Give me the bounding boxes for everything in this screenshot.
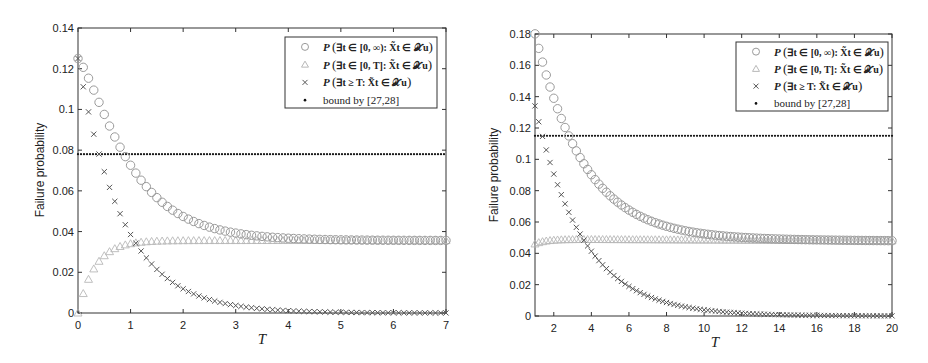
x-marker — [312, 309, 317, 314]
bound-dot — [170, 153, 172, 155]
bound-dot — [708, 135, 710, 137]
x-tick-label: 1 — [128, 319, 134, 331]
x-marker — [117, 211, 122, 216]
bound-dot — [218, 153, 220, 155]
bound-dot — [702, 135, 704, 137]
circle-marker — [184, 215, 192, 223]
x-marker — [344, 310, 349, 315]
circle-marker — [142, 182, 150, 190]
x-marker — [138, 248, 143, 253]
legend-entry: P (∃t ≥ T: X̃t ∈ 𝒳u) — [323, 74, 411, 89]
bound-dot — [849, 135, 851, 137]
bound-dot — [77, 153, 79, 155]
bound-dot — [783, 135, 785, 137]
legend-entry: P (∃t ∈ [0, T]: X̃t ∈ 𝒳u) — [323, 57, 432, 72]
bound-dot — [323, 153, 325, 155]
bound-dot — [131, 153, 133, 155]
bound-dot — [606, 135, 608, 137]
bound-dot — [206, 153, 208, 155]
x-marker — [175, 283, 180, 288]
bound-dot — [290, 153, 292, 155]
bound-dot — [555, 135, 557, 137]
bound-dot — [882, 135, 884, 137]
bound-dot — [669, 135, 671, 137]
bound-dot — [191, 153, 193, 155]
bound-dot — [798, 135, 800, 137]
triangle-marker — [111, 245, 119, 252]
bound-dot — [110, 153, 112, 155]
bound-dot — [185, 153, 187, 155]
bound-dot — [209, 153, 211, 155]
bound-dot — [212, 153, 214, 155]
bound-dot — [750, 135, 752, 137]
bound-dot — [113, 153, 115, 155]
left-plot: 0123456700.020.040.060.080.10.120.14 Fai… — [33, 22, 450, 347]
bound-dot — [263, 153, 265, 155]
bound-dot — [83, 153, 85, 155]
x-marker — [664, 300, 669, 305]
bound-dot — [260, 153, 262, 155]
bound-dot — [870, 135, 872, 137]
bound-dot — [576, 135, 578, 137]
legend-entry: P (∃t ≥ T: X̃t ∈ 𝒳u) — [774, 78, 862, 93]
x-tick-label: 2 — [551, 322, 557, 334]
bound-dot — [257, 153, 259, 155]
bound-dot — [197, 153, 199, 155]
bound-dot — [224, 153, 226, 155]
bound-dot — [164, 153, 166, 155]
x-marker — [555, 182, 560, 187]
bound-dot — [230, 153, 232, 155]
bound-dot — [173, 153, 175, 155]
right-xlabel: T — [711, 334, 721, 350]
bound-dot — [855, 135, 857, 137]
triangle-marker — [79, 290, 87, 297]
x-marker — [96, 151, 101, 156]
bound-dot — [723, 135, 725, 137]
bound-dot — [639, 135, 641, 137]
bound-dot — [747, 135, 749, 137]
bound-dot — [651, 135, 653, 137]
triangle-marker — [90, 265, 98, 272]
bound-dot — [419, 153, 421, 155]
bound-dot — [431, 153, 433, 155]
x-marker — [559, 192, 564, 197]
bound-dot — [299, 153, 301, 155]
bound-dot — [143, 153, 145, 155]
bound-dot — [684, 135, 686, 137]
bound-dot — [765, 135, 767, 137]
x-tick-label: 16 — [811, 322, 823, 334]
bound-dot — [846, 135, 848, 137]
x-tick-label: 5 — [338, 319, 344, 331]
bound-dot — [329, 153, 331, 155]
bound-dot — [633, 135, 635, 137]
y-tick-label: 0.18 — [510, 28, 531, 40]
bound-dot — [588, 135, 590, 137]
x-marker — [165, 276, 170, 281]
x-marker — [217, 300, 222, 305]
bound-dot — [675, 135, 677, 137]
x-marker — [149, 261, 154, 266]
bound-dot — [600, 135, 602, 137]
x-marker — [254, 306, 259, 311]
bound-dot — [618, 135, 620, 137]
x-marker — [660, 299, 665, 304]
bound-dot — [861, 135, 863, 137]
x-marker — [212, 298, 217, 303]
bound-dot — [296, 153, 298, 155]
bound-dot — [227, 153, 229, 155]
x-tick-label: 14 — [773, 322, 785, 334]
bound-dot — [804, 135, 806, 137]
bound-dot — [756, 135, 758, 137]
x-marker — [328, 310, 333, 315]
bound-dot — [371, 153, 373, 155]
bound-dot — [269, 153, 271, 155]
circle-marker — [553, 105, 561, 113]
bound-dot — [837, 135, 839, 137]
bound-dot — [891, 135, 893, 137]
x-tick-label: 4 — [588, 322, 594, 334]
bound-dot — [582, 135, 584, 137]
bound-dot — [660, 135, 662, 137]
y-tick-label: 0.12 — [510, 122, 531, 134]
bound-dot — [561, 135, 563, 137]
x-marker — [270, 307, 275, 312]
